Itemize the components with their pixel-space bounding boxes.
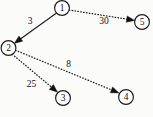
edge-weight-2-4: 8 [66, 59, 71, 69]
edge-1-to-2 [14, 13, 56, 43]
node-label-1: 1 [60, 3, 65, 13]
node-1[interactable]: 1 [55, 1, 70, 16]
node-3[interactable]: 3 [56, 91, 71, 106]
node-label-5: 5 [140, 17, 145, 27]
arrowhead-icon-1-2 [14, 36, 23, 43]
arrowhead-icon-2-4 [110, 87, 119, 93]
node-label-2: 2 [6, 43, 11, 53]
edge-weight-2-3: 25 [27, 79, 37, 89]
node-4[interactable]: 4 [119, 90, 134, 105]
directed-graph-figure: 3 30 8 25 1 2 3 4 [0, 0, 153, 117]
node-label-4: 4 [124, 92, 129, 102]
graph-canvas: 3 30 8 25 1 2 3 4 [0, 0, 153, 117]
edge-weight-1-5: 30 [99, 16, 109, 26]
edge-weight-group: 3 30 8 25 [27, 16, 109, 89]
edge-line-1-2 [19, 13, 57, 40]
edge-weight-1-2: 3 [28, 16, 33, 26]
arrowhead-icon-1-5 [126, 16, 135, 22]
node-label-3: 3 [61, 93, 66, 103]
node-5[interactable]: 5 [135, 15, 150, 30]
node-2[interactable]: 2 [1, 41, 16, 56]
